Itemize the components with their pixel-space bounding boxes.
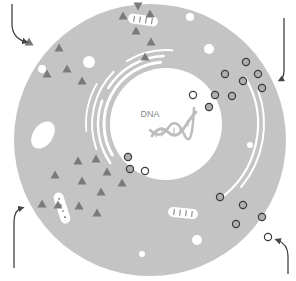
vesicle bbox=[126, 165, 133, 172]
vesicle bbox=[258, 84, 265, 91]
vacuole bbox=[38, 65, 46, 73]
vesicle bbox=[216, 193, 223, 200]
nucleus bbox=[110, 68, 222, 180]
vacuole bbox=[139, 251, 145, 257]
vesicle bbox=[228, 92, 235, 99]
vesicle bbox=[239, 77, 246, 84]
vacuole bbox=[204, 44, 214, 54]
vesicle bbox=[232, 220, 239, 227]
vesicle bbox=[258, 213, 265, 220]
vesicle bbox=[242, 58, 249, 65]
cell-diagram: DNA bbox=[0, 0, 296, 281]
vesicle bbox=[205, 103, 212, 110]
vacuole bbox=[186, 13, 194, 21]
vesicle bbox=[239, 201, 246, 208]
vesicle bbox=[211, 91, 218, 98]
vacuole bbox=[247, 142, 253, 148]
vesicle bbox=[124, 153, 131, 160]
vesicle bbox=[264, 233, 271, 240]
vesicle bbox=[254, 70, 261, 77]
vacuole bbox=[83, 56, 95, 68]
dna-label: DNA bbox=[140, 109, 159, 119]
vacuole bbox=[192, 235, 202, 245]
vesicle bbox=[189, 91, 196, 98]
vesicle bbox=[141, 167, 148, 174]
vesicle bbox=[221, 70, 228, 77]
